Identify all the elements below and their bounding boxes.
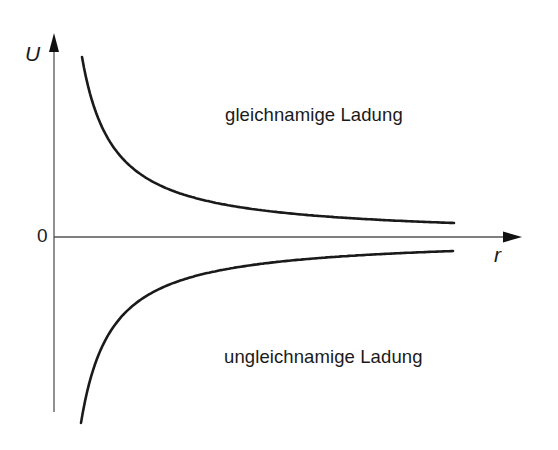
potential-energy-diagram <box>0 0 558 450</box>
y-axis-label: U <box>25 42 40 66</box>
label-unlike-charges: ungleichnamige Ladung <box>224 346 423 368</box>
x-axis-arrow-icon <box>503 232 522 243</box>
origin-label: 0 <box>37 225 48 247</box>
y-axis-arrow-icon <box>49 33 59 52</box>
curve-like-charges <box>82 57 454 223</box>
curve-unlike-charges <box>81 251 453 423</box>
label-like-charges: gleichnamige Ladung <box>225 104 403 126</box>
x-axis-label: r <box>494 243 501 267</box>
